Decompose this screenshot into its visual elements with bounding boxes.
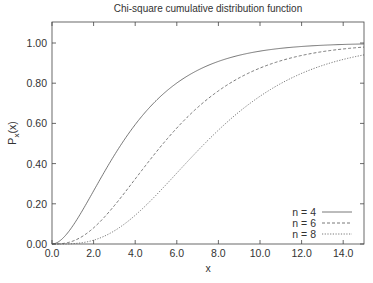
curve-solid — [52, 44, 364, 244]
x-tick-label: 8.0 — [211, 247, 226, 259]
y-tick-label: 1.00 — [27, 37, 48, 49]
x-axis-label: x — [205, 262, 211, 274]
plot-frame — [52, 22, 364, 244]
chi-square-cdf-chart: Chi-square cumulative distribution funct… — [0, 0, 373, 283]
y-tick-label: 0.80 — [27, 77, 48, 89]
y-tick-label: 0.00 — [27, 238, 48, 250]
curve-dotted — [52, 55, 364, 244]
chart-title: Chi-square cumulative distribution funct… — [114, 3, 302, 14]
x-tick-label: 10.0 — [250, 247, 271, 259]
curves — [52, 44, 364, 244]
x-tick-label: 12.0 — [291, 247, 312, 259]
x-tick-label: 6.0 — [169, 247, 184, 259]
x-tick-label: 14.0 — [333, 247, 354, 259]
x-tick-label: 2.0 — [86, 247, 101, 259]
legend-label: n = 8 — [292, 228, 316, 240]
y-tick-label: 0.40 — [27, 158, 48, 170]
y-tick-label: 0.60 — [27, 117, 48, 129]
curve-dashed — [52, 47, 364, 244]
x-tick-label: 4.0 — [128, 247, 143, 259]
legend: n = 4n = 6n = 8 — [292, 206, 352, 240]
svg-text:Px(x): Px(x) — [6, 121, 21, 144]
y-tick-label: 0.20 — [27, 198, 48, 210]
y-axis-label: Px(x) — [6, 121, 21, 144]
